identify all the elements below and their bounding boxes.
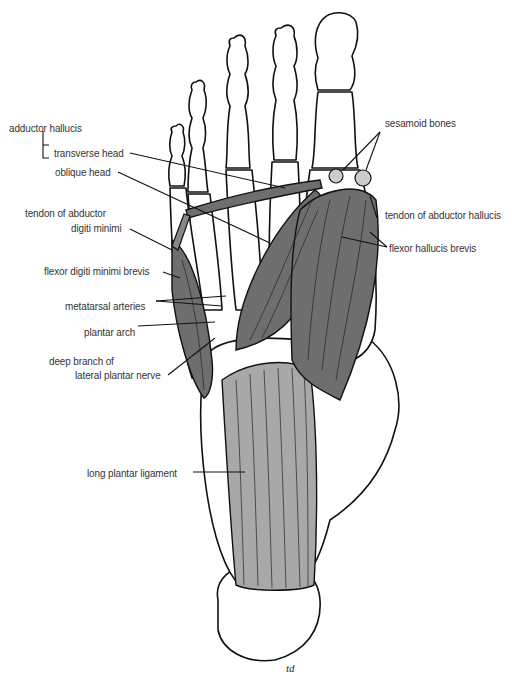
hallux-proximal-phalanx bbox=[312, 92, 358, 168]
sesamoid-bone-medial bbox=[355, 170, 371, 186]
label-oblique-head: oblique head bbox=[55, 166, 111, 179]
foot-illustration bbox=[0, 0, 529, 684]
hallux-distal-phalanx bbox=[315, 13, 357, 90]
label-deep-branch-1: deep branch of bbox=[49, 355, 114, 368]
label-transverse-head: transverse head bbox=[54, 147, 124, 160]
label-tendon-abductor-digiti-minimi-1: tendon of abductor bbox=[25, 207, 106, 220]
label-long-plantar-ligament: long plantar ligament bbox=[87, 467, 177, 480]
artist-signature: td bbox=[286, 662, 295, 674]
sesamoid-bone-lateral bbox=[329, 169, 343, 183]
long-plantar-ligament bbox=[222, 363, 317, 591]
label-metatarsal-arteries: metatarsal arteries bbox=[65, 300, 145, 313]
toe2-phalanges bbox=[273, 25, 298, 160]
toe3-phalanges bbox=[226, 35, 250, 168]
label-flexor-digiti-minimi-brevis: flexor digiti minimi brevis bbox=[44, 265, 149, 278]
label-adductor-hallucis: adductor hallucis bbox=[9, 122, 82, 135]
label-flexor-hallucis-brevis: flexor hallucis brevis bbox=[389, 242, 476, 255]
label-tendon-abductor-digiti-minimi-2: digiti minimi bbox=[71, 222, 122, 235]
label-sesamoid-bones: sesamoid bones bbox=[385, 117, 456, 130]
label-deep-branch-2: lateral plantar nerve bbox=[75, 369, 161, 382]
toe5-phalanges bbox=[169, 124, 186, 186]
label-tendon-abductor-hallucis: tendon of abductor hallucis bbox=[385, 209, 501, 222]
toe4-phalanges bbox=[188, 80, 208, 192]
label-plantar-arch: plantar arch bbox=[84, 326, 135, 339]
